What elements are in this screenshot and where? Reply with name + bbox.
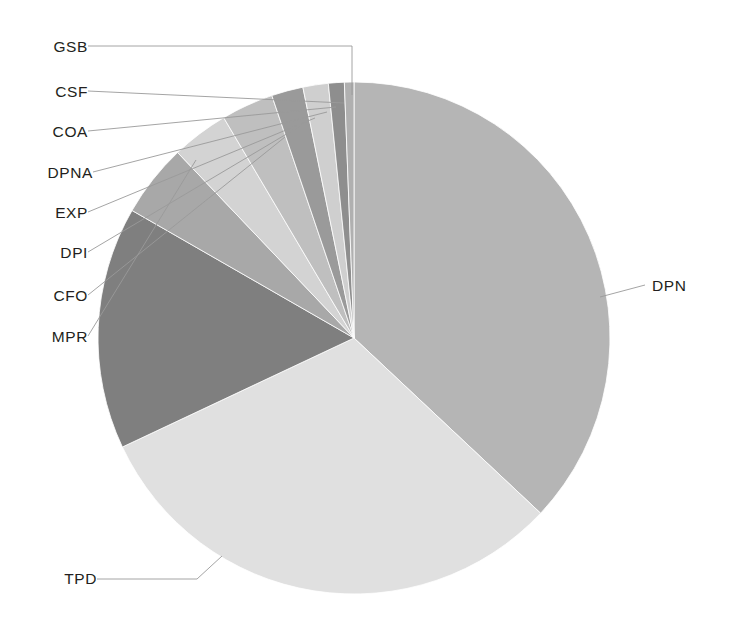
pie-label-dpn: DPN [652, 278, 687, 294]
pie-label-tpd: TPD [64, 571, 97, 587]
pie-chart-page: GSB CSF COA DPNA EXP DPI CFO MPR TPD DPN [0, 0, 729, 631]
pie-label-mpr: MPR [52, 329, 88, 345]
leader-line-dpn [600, 285, 645, 297]
leader-line-tpd [97, 556, 222, 579]
pie-label-coa: COA [53, 124, 88, 140]
pie-label-cfo: CFO [53, 288, 88, 304]
pie-label-csf: CSF [55, 84, 88, 100]
pie-chart-figure [0, 0, 729, 631]
pie-label-exp: EXP [55, 205, 88, 221]
pie-label-dpna: DPNA [48, 165, 93, 181]
pie-slices-group [98, 82, 610, 594]
pie-label-gsb: GSB [53, 39, 88, 55]
pie-label-dpi: DPI [60, 245, 88, 261]
